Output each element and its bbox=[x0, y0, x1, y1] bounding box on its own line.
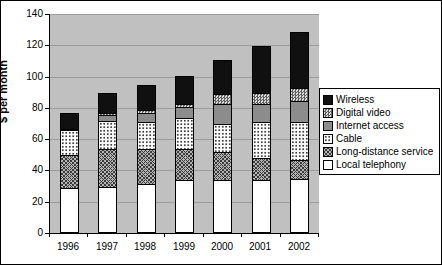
x-category-label-2000: 2000 bbox=[202, 241, 242, 253]
bar-2000-segment-ld bbox=[213, 152, 232, 181]
bar-1996-segment-local bbox=[60, 188, 79, 233]
bar-1997 bbox=[98, 14, 117, 233]
y-tick-mark-60 bbox=[45, 139, 49, 140]
legend-item-cable: Cable bbox=[323, 132, 436, 145]
legend-item-internet: Internet access bbox=[323, 119, 436, 132]
bar-1999-segment-cable bbox=[175, 118, 194, 150]
bar-2002-segment-internet bbox=[290, 101, 309, 123]
bar-2001-segment-internet bbox=[252, 104, 271, 123]
legend-swatch-internet bbox=[323, 121, 333, 131]
y-tick-mark-80 bbox=[45, 108, 49, 109]
bar-2001-segment-ld bbox=[252, 158, 271, 181]
bar-1996-segment-wireless bbox=[60, 113, 79, 130]
bar-2000-segment-internet bbox=[213, 104, 232, 125]
x-category-label-2001: 2001 bbox=[240, 241, 280, 253]
x-category-label-1999: 1999 bbox=[164, 241, 204, 253]
x-tick-mark-3 bbox=[164, 233, 165, 237]
x-tick-mark-0 bbox=[49, 233, 50, 237]
x-tick-mark-2 bbox=[126, 233, 127, 237]
bar-1998 bbox=[137, 14, 156, 233]
legend-label-dv: Digital video bbox=[336, 107, 390, 118]
bar-2002-segment-local bbox=[290, 179, 309, 233]
bar-1997-segment-wireless bbox=[98, 93, 117, 114]
bar-2002 bbox=[290, 14, 309, 233]
y-tick-label-80: 80 bbox=[15, 103, 43, 113]
bar-2002-segment-wireless bbox=[290, 32, 309, 89]
bar-2000-segment-cable bbox=[213, 124, 232, 153]
bar-2001-segment-wireless bbox=[252, 46, 271, 94]
x-tick-mark-4 bbox=[203, 233, 204, 237]
bar-1997-segment-cable bbox=[98, 121, 117, 150]
bar-1998-segment-local bbox=[137, 184, 156, 233]
y-tick-mark-120 bbox=[45, 45, 49, 46]
bar-1997-segment-internet bbox=[98, 115, 117, 122]
legend-label-wireless: Wireless bbox=[336, 94, 374, 105]
y-tick-mark-100 bbox=[45, 77, 49, 78]
bar-1998-segment-ld bbox=[137, 149, 156, 185]
bar-2001 bbox=[252, 14, 271, 233]
bar-1999-segment-internet bbox=[175, 107, 194, 119]
bar-1999 bbox=[175, 14, 194, 233]
legend-swatch-local bbox=[323, 160, 333, 170]
bar-1999-segment-wireless bbox=[175, 76, 194, 105]
x-category-label-2002: 2002 bbox=[279, 241, 319, 253]
bar-1999-segment-local bbox=[175, 180, 194, 233]
y-tick-label-60: 60 bbox=[15, 134, 43, 144]
bar-2000-segment-wireless bbox=[213, 60, 232, 95]
legend-label-cable: Cable bbox=[336, 133, 362, 144]
legend-box: WirelessDigital videoInternet accessCabl… bbox=[319, 88, 440, 175]
bar-2000-segment-local bbox=[213, 180, 232, 233]
x-tick-mark-7 bbox=[318, 233, 319, 237]
bar-1997-segment-local bbox=[98, 187, 117, 233]
x-category-label-1996: 1996 bbox=[48, 241, 88, 253]
legend-swatch-cable bbox=[323, 134, 333, 144]
bar-2000-segment-dv bbox=[213, 94, 232, 105]
bar-1998-segment-internet bbox=[137, 113, 156, 123]
bar-2001-segment-local bbox=[252, 180, 271, 233]
y-tick-label-100: 100 bbox=[15, 72, 43, 82]
y-tick-label-120: 120 bbox=[15, 40, 43, 50]
y-tick-mark-140 bbox=[45, 14, 49, 15]
y-tick-label-40: 40 bbox=[15, 165, 43, 175]
legend-item-ld: Long-distance service bbox=[323, 145, 436, 158]
y-tick-label-0: 0 bbox=[15, 228, 43, 238]
bar-1999-segment-ld bbox=[175, 149, 194, 181]
legend-swatch-ld bbox=[323, 147, 333, 157]
x-category-label-1997: 1997 bbox=[87, 241, 127, 253]
legend-item-dv: Digital video bbox=[323, 106, 436, 119]
x-tick-mark-5 bbox=[241, 233, 242, 237]
stacked-bar-chart-figure: $ per month WirelessDigital videoInterne… bbox=[0, 0, 442, 265]
legend-swatch-wireless bbox=[323, 95, 333, 105]
legend-swatch-dv bbox=[323, 108, 333, 118]
y-tick-label-20: 20 bbox=[15, 197, 43, 207]
legend-label-internet: Internet access bbox=[336, 120, 404, 131]
y-axis-title: $ per month bbox=[0, 60, 9, 123]
bar-2000 bbox=[213, 14, 232, 233]
bar-1998-segment-cable bbox=[137, 122, 156, 150]
legend-label-local: Local telephony bbox=[336, 159, 406, 170]
bar-2002-segment-ld bbox=[290, 160, 309, 180]
legend-item-wireless: Wireless bbox=[323, 93, 436, 106]
plot-area bbox=[49, 14, 319, 234]
legend-label-ld: Long-distance service bbox=[336, 146, 433, 157]
x-tick-mark-6 bbox=[280, 233, 281, 237]
bar-2002-segment-cable bbox=[290, 122, 309, 161]
bar-1996-segment-cable bbox=[60, 130, 79, 156]
bar-2001-segment-cable bbox=[252, 122, 271, 159]
x-tick-mark-1 bbox=[87, 233, 88, 237]
bar-1997-segment-ld bbox=[98, 149, 117, 188]
bar-2001-segment-dv bbox=[252, 93, 271, 105]
y-tick-label-140: 140 bbox=[15, 9, 43, 19]
y-tick-mark-20 bbox=[45, 202, 49, 203]
y-tick-mark-40 bbox=[45, 170, 49, 171]
bar-1996-segment-ld bbox=[60, 155, 79, 189]
bar-1998-segment-wireless bbox=[137, 85, 156, 111]
bar-1996 bbox=[60, 14, 79, 233]
legend-item-local: Local telephony bbox=[323, 158, 436, 171]
x-category-label-1998: 1998 bbox=[125, 241, 165, 253]
bar-2002-segment-dv bbox=[290, 88, 309, 102]
